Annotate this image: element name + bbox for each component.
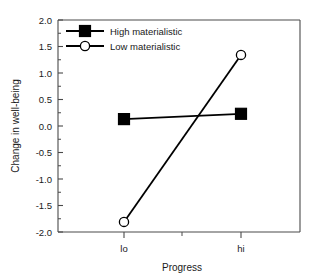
data-point-high-lo bbox=[119, 114, 130, 125]
y-axis-title: Change in well-being bbox=[10, 79, 21, 172]
legend-entry-low-materialistic: Low materialistic bbox=[66, 41, 180, 52]
y-tick-label: 1.5 bbox=[39, 41, 52, 52]
x-tick-label-hi: hi bbox=[237, 243, 244, 254]
y-axis-tick-labels: 2.0 1.5 1.0 0.5 0.0 -0.5 -1.0 -1.5 -2.0 bbox=[36, 15, 52, 238]
legend-entry-high-materialistic: High materialistic bbox=[66, 26, 183, 37]
legend-marker-filled-square-icon bbox=[80, 26, 91, 37]
legend-label-high: High materialistic bbox=[110, 26, 183, 37]
x-tick-label-lo: lo bbox=[120, 243, 127, 254]
data-point-low-lo bbox=[119, 217, 128, 226]
legend-label-low: Low materialistic bbox=[110, 41, 180, 52]
y-tick-label: -0.5 bbox=[36, 147, 52, 158]
y-tick-label: 1.0 bbox=[39, 68, 52, 79]
y-tick-label: 0.0 bbox=[39, 121, 52, 132]
y-tick-label: 2.0 bbox=[39, 15, 52, 26]
data-point-low-hi bbox=[236, 50, 245, 59]
y-tick-label: -1.0 bbox=[36, 174, 52, 185]
legend-marker-open-circle-icon bbox=[80, 41, 89, 50]
data-point-high-hi bbox=[236, 108, 247, 119]
line-chart: 2.0 1.5 1.0 0.5 0.0 -0.5 -1.0 -1.5 -2.0 … bbox=[0, 0, 320, 280]
y-tick-label: -1.5 bbox=[36, 200, 52, 211]
x-axis-title: Progress bbox=[162, 262, 202, 273]
y-tick-label: 0.5 bbox=[39, 94, 52, 105]
y-tick-label: -2.0 bbox=[36, 227, 52, 238]
